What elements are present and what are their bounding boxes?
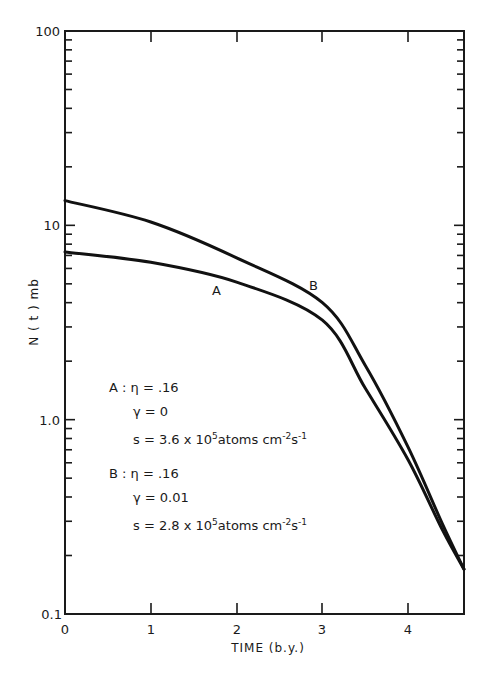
y-axis-title: N ( t ) mb: [27, 278, 41, 346]
curve-a-label: A: [212, 283, 221, 298]
legend-a-s-unit2: s: [291, 432, 298, 447]
legend-a-s: s = 3.6 x 105atoms cm-2s-1: [109, 424, 307, 452]
legend-a-s-exp2: -2: [282, 431, 291, 441]
legend-a-s-exp3: -1: [298, 431, 307, 441]
y-tick-label: 1.0: [39, 413, 60, 428]
legend-a-eta-value: η = .16: [131, 380, 179, 395]
curve-b-label: B: [309, 278, 318, 293]
legend-b-eta-value: η = .16: [131, 466, 179, 481]
legend-a-gamma: γ = 0: [109, 400, 307, 424]
legend-b-gamma: γ = 0.01: [109, 486, 307, 510]
legend-b-s-prefix: s = 2.8 x 10: [133, 519, 212, 534]
x-tick-label: 3: [318, 622, 326, 637]
chart-canvas: 0 1 2 3 4 100 10 1.0 0.1 TIME (b.y.) N (…: [0, 0, 490, 674]
y-tick-label: 0.1: [41, 607, 62, 622]
legend-a-eta: A : η = .16: [109, 376, 307, 400]
x-tick-label: 2: [233, 622, 241, 637]
x-tick-label: 1: [147, 622, 155, 637]
legend-a-s-prefix: s = 3.6 x 10: [133, 432, 212, 447]
x-tick-label: 4: [404, 622, 412, 637]
x-tick-label: 0: [61, 622, 69, 637]
legend-a-s-unit: atoms cm: [218, 432, 282, 447]
y-tick-label: 10: [43, 218, 60, 233]
x-axis-title: TIME (b.y.): [230, 641, 305, 655]
legend-b-eta: B : η = .16: [109, 462, 307, 486]
legend-b-s-exp2: -2: [282, 517, 291, 527]
legend-b-s-exp3: -1: [298, 517, 307, 527]
legend-b-s-unit: atoms cm: [218, 519, 282, 534]
legend: A : η = .16 γ = 0 s = 3.6 x 105atoms cm-…: [109, 376, 307, 539]
y-tick-label: 100: [35, 24, 60, 39]
legend-colon: :: [118, 466, 131, 481]
legend-colon: :: [118, 380, 131, 395]
legend-b-s-unit2: s: [291, 519, 298, 534]
legend-b-title: B: [109, 466, 118, 481]
legend-b-s: s = 2.8 x 105atoms cm-2s-1: [109, 510, 307, 538]
legend-a-title: A: [109, 380, 118, 395]
